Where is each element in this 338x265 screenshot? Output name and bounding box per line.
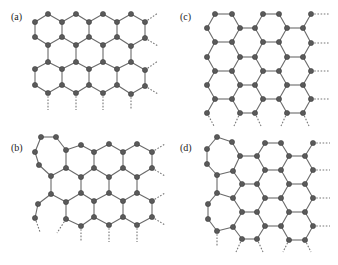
carbon-atom: [128, 59, 133, 64]
carbon-atom: [100, 42, 105, 47]
carbon-atom: [48, 191, 53, 196]
carbon-atom: [106, 222, 111, 227]
carbon-atom: [284, 25, 289, 30]
carbon-atom: [214, 190, 219, 195]
carbon-atom: [204, 161, 209, 166]
carbon-atom: [230, 195, 235, 200]
carbon-atom: [302, 153, 307, 158]
graphene-edge-reconstruction-figure: (a) (b) (c) (d): [0, 0, 338, 265]
carbon-atom: [63, 165, 68, 170]
carbon-atom: [205, 201, 210, 206]
carbon-atom: [45, 42, 50, 47]
carbon-atom: [53, 134, 58, 139]
carbon-atom: [252, 25, 257, 30]
carbon-atom: [114, 66, 119, 71]
carbon-atom: [302, 237, 307, 242]
carbon-atom: [230, 224, 235, 229]
carbon-atom: [149, 165, 154, 170]
carbon-atom: [284, 54, 289, 59]
carbon-atom: [278, 140, 283, 145]
carbon-atom: [134, 222, 139, 227]
carbon-atom: [32, 82, 37, 87]
carbon-atom: [128, 43, 133, 48]
panel-label-b: (b): [11, 142, 23, 154]
carbon-atom: [149, 198, 154, 203]
carbon-atom: [262, 167, 267, 172]
carbon-atom: [59, 82, 64, 87]
carbon-atom: [286, 153, 291, 158]
carbon-atom: [229, 11, 234, 16]
carbon-atom: [302, 209, 307, 214]
carbon-atom: [63, 216, 68, 221]
carbon-atom: [100, 11, 105, 16]
carbon-atom: [134, 141, 139, 146]
carbon-atom: [106, 190, 111, 195]
carbon-atom: [204, 25, 209, 30]
carbon-atom: [260, 96, 265, 101]
carbon-atom: [310, 223, 315, 228]
carbon-atom: [278, 195, 283, 200]
panel-label-c: (c): [180, 11, 191, 23]
carbon-atom: [106, 174, 111, 179]
panel-label-d: (d): [180, 142, 192, 154]
carbon-atom: [278, 167, 283, 172]
carbon-atom: [310, 140, 315, 145]
carbon-atom: [308, 11, 313, 16]
carbon-atom: [308, 40, 313, 45]
carbon-atom: [230, 168, 235, 173]
carbon-atom: [32, 66, 37, 71]
carbon-atom: [134, 174, 139, 179]
carbon-atom: [91, 198, 96, 203]
carbon-atom: [260, 68, 265, 73]
carbon-atom: [286, 209, 291, 214]
carbon-atom: [59, 19, 64, 24]
carbon-atom: [100, 90, 105, 95]
carbon-atom: [262, 140, 267, 145]
carbon-atom: [237, 54, 242, 59]
carbon-atom: [91, 149, 96, 154]
carbon-atom: [229, 139, 234, 144]
carbon-atom: [308, 68, 313, 73]
carbon-atom: [100, 59, 105, 64]
carbon-atom: [229, 39, 234, 44]
carbon-atom: [78, 142, 83, 147]
carbon-atom: [128, 91, 133, 96]
carbon-atom: [262, 223, 267, 228]
carbon-atom: [252, 82, 257, 87]
carbon-atom: [45, 59, 50, 64]
carbon-atom: [134, 190, 139, 195]
carbon-atom: [254, 236, 259, 241]
carbon-atom: [310, 195, 315, 200]
carbon-atom: [300, 54, 305, 59]
carbon-atom: [73, 11, 78, 16]
carbon-atom: [149, 214, 154, 219]
carbon-atom: [63, 199, 68, 204]
carbon-atom: [308, 96, 313, 101]
carbon-atom: [284, 110, 289, 115]
carbon-atom: [35, 201, 40, 206]
carbon-atom: [237, 82, 242, 87]
carbon-atom: [73, 42, 78, 47]
carbon-atom: [276, 68, 281, 73]
carbon-atom: [73, 90, 78, 95]
carbon-atom: [239, 236, 244, 241]
carbon-atom: [78, 190, 83, 195]
carbon-atom: [237, 153, 242, 158]
carbon-atom: [260, 39, 265, 44]
carbon-atom: [252, 54, 257, 59]
carbon-atom: [59, 66, 64, 71]
carbon-atom: [237, 25, 242, 30]
background: [0, 0, 338, 265]
carbon-atom: [106, 141, 111, 146]
carbon-atom: [284, 82, 289, 87]
carbon-atom: [142, 67, 147, 72]
carbon-atom: [120, 198, 125, 203]
carbon-atom: [254, 153, 259, 158]
carbon-atom: [237, 110, 242, 115]
carbon-atom: [142, 35, 147, 40]
carbon-atom: [214, 134, 219, 139]
carbon-atom: [310, 167, 315, 172]
carbon-atom: [63, 147, 68, 152]
carbon-atom: [214, 172, 219, 177]
carbon-atom: [45, 11, 50, 16]
